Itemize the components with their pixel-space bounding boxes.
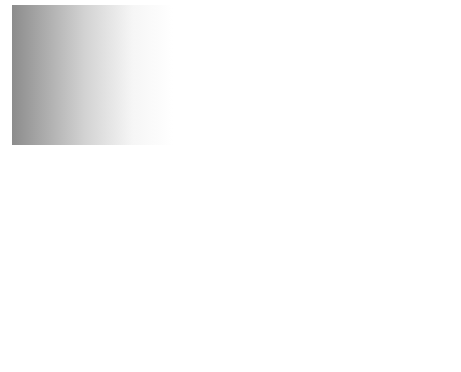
pipe-flow-diagram (0, 0, 461, 372)
